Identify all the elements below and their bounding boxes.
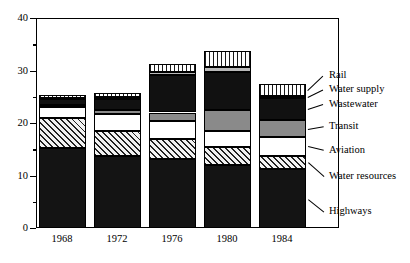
legend-label-wastewater: Wastewater <box>329 99 378 110</box>
legend-label-water-supply: Water supply <box>329 84 384 95</box>
legend-leader-aviation <box>307 146 323 152</box>
legend-leader-wastewater <box>307 104 323 111</box>
legend-label-water-resources: Water resources <box>329 171 396 182</box>
legend-leader-water-resources <box>307 163 324 178</box>
stacked-bar-chart: 010203040 19681972197619801984 RailWater… <box>0 0 410 263</box>
legend-label-aviation: Aviation <box>329 145 365 156</box>
legend: RailWater supplyWastewaterTransitAviatio… <box>0 0 410 263</box>
legend-leader-transit <box>307 126 323 131</box>
legend-label-highways: Highways <box>329 206 372 217</box>
legend-label-transit: Transit <box>329 121 358 132</box>
legend-label-rail: Rail <box>329 70 347 81</box>
legend-leader-highways <box>307 199 324 213</box>
